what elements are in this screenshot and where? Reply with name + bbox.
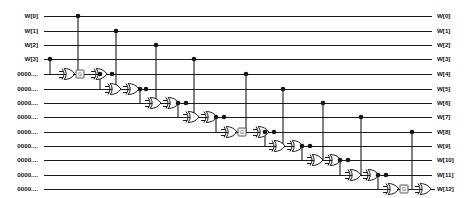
gate-output-junction-6 (346, 158, 351, 163)
inline-box-b1: G (73, 70, 87, 78)
tap-junction-t0 (76, 14, 81, 19)
tap-junction-t3 (192, 57, 197, 62)
input-label-row-11: 0000.... (17, 171, 38, 178)
output-label-row-7: W[7] (437, 113, 450, 120)
input-label-row-9: 0000.... (17, 142, 38, 149)
input-label-row-3: W[3] (25, 55, 38, 62)
input-label-row-10: 0000.... (17, 156, 38, 163)
input-label-row-4: 0000.... (17, 70, 38, 77)
inline-box-label-b2: G (240, 129, 244, 135)
output-label-row-6: W[6] (437, 99, 450, 106)
output-label-row-9: W[9] (437, 142, 450, 149)
output-label-row-4: W[4] (437, 70, 450, 77)
inline-box-label-b3: G (402, 186, 406, 192)
tap-junction-t2 (154, 43, 159, 48)
inline-box-label-b1: G (78, 71, 82, 77)
label-layer: W[0]W[0]W[1]W[1]W[2]W[2]W[3]W[3]0000....… (17, 12, 454, 192)
input-label-row-8: 0000.... (17, 128, 38, 135)
output-label-row-0: W[0] (437, 12, 450, 19)
logic-schematic-diagram: GGG W[0]W[0]W[1]W[1]W[2]W[2]W[3]W[3]0000… (0, 0, 473, 198)
feedback-junction-f10 (338, 158, 343, 163)
output-label-row-10: W[10] (437, 156, 454, 163)
inline-box-b3: G (397, 185, 411, 193)
junction-layer (48, 14, 415, 178)
input-label-row-7: 0000.... (17, 113, 38, 120)
input-label-row-6: 0000.... (17, 99, 38, 106)
input-label-row-1: W[1] (25, 27, 38, 34)
gate-output-junction-7 (384, 173, 389, 178)
output-label-row-3: W[3] (437, 55, 450, 62)
output-label-row-8: W[8] (437, 128, 450, 135)
gate-output-junction-5 (308, 144, 313, 149)
tap-junction-t4 (244, 72, 249, 77)
output-label-row-5: W[5] (437, 85, 450, 92)
tap-junction-t7 (359, 115, 364, 120)
tap-junction-t5 (281, 87, 286, 92)
wire-layer (44, 16, 432, 189)
feedback-junction-f6 (176, 101, 181, 106)
output-label-row-1: W[1] (437, 27, 450, 34)
output-label-row-11: W[11] (437, 171, 454, 178)
gate-output-junction-0 (110, 72, 115, 77)
gate-output-junction-1 (144, 87, 149, 92)
feedback-junction-f7 (214, 115, 219, 120)
input-label-row-5: 0000.... (17, 85, 38, 92)
inline-box-b2: G (235, 128, 249, 136)
feedback-junction-f9 (300, 144, 305, 149)
tap-junction-t1 (114, 29, 119, 34)
schematic-canvas: GGG W[0]W[0]W[1]W[1]W[2]W[2]W[3]W[3]0000… (0, 0, 473, 198)
output-label-row-12: W[12] (437, 185, 454, 192)
feedback-junction-f8 (263, 130, 268, 135)
output-label-row-2: W[2] (437, 41, 450, 48)
feedback-junction-f5 (138, 87, 143, 92)
input-label-row-0: W[0] (25, 12, 38, 19)
feedback-junction-f3 (48, 57, 53, 62)
feedback-junction-f11 (376, 173, 381, 178)
gate-output-junction-3 (222, 115, 227, 120)
input-label-row-12: 0000.... (17, 185, 38, 192)
feedback-junction-f4 (98, 72, 103, 77)
gate-output-junction-2 (184, 101, 189, 106)
tap-junction-t6 (321, 101, 326, 106)
input-label-row-2: W[2] (25, 41, 38, 48)
gate-output-junction-4 (272, 130, 277, 135)
tap-junction-t8 (410, 130, 415, 135)
